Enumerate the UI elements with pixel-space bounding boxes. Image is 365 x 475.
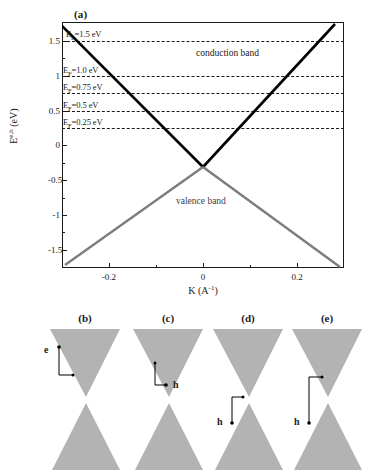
panel-dirac-cone-row: (b) e (c) h (d) bbox=[0, 300, 365, 475]
dirac-cone-b bbox=[42, 327, 128, 472]
valence-branch-left bbox=[65, 167, 203, 265]
dirac-cone-e bbox=[284, 327, 365, 472]
panel-c-label: (c) bbox=[125, 312, 211, 324]
panel-e-label: (e) bbox=[284, 312, 365, 324]
lower-cone-e bbox=[294, 403, 362, 470]
fermi-label-1.5: EF=1.5 eV bbox=[66, 29, 101, 41]
panel-a-band-dispersion: (a) 1.5 1 0.5 0 -0.5 -1 -1.5 -0.2 0 0.2 bbox=[0, 0, 365, 300]
ytick-label-0: 0 bbox=[48, 141, 60, 149]
xtick-label-neg0.2: -0.2 bbox=[94, 272, 124, 282]
panel-c: (c) h bbox=[125, 300, 211, 475]
carrier-label-c: h bbox=[173, 379, 179, 390]
panel-d: (d) h bbox=[205, 300, 291, 475]
upper-cone-e bbox=[292, 329, 362, 397]
lower-cone-d bbox=[215, 403, 283, 470]
carrier-dot-bottom-b bbox=[72, 374, 75, 377]
ytick-label-neg1: -1 bbox=[48, 211, 60, 219]
panel-b: (b) e bbox=[42, 300, 128, 475]
carrier-label-d: h bbox=[217, 416, 223, 427]
lower-cone-c bbox=[135, 403, 203, 470]
panel-e: (e) h bbox=[284, 300, 365, 475]
upper-cone-b bbox=[50, 329, 120, 397]
x-axis-label-base: K (A bbox=[188, 285, 208, 296]
fermi-label-0.75: EF=0.75 eV bbox=[63, 82, 103, 94]
carrier-bracket-e bbox=[309, 377, 322, 423]
fermi-label-1.0-value: =1.0 eV bbox=[72, 65, 99, 75]
carrier-dot-top-e bbox=[321, 376, 324, 379]
xtick-label-0.2: 0.2 bbox=[282, 272, 312, 282]
y-axis-label-sup: e,h bbox=[7, 129, 15, 137]
fermi-label-0.75-value: =0.75 eV bbox=[72, 82, 103, 92]
fermi-label-1.5-value: =1.5 eV bbox=[75, 29, 102, 39]
y-axis-label-base: E bbox=[8, 138, 19, 144]
fermi-label-1.0: EF=1.0 eV bbox=[63, 65, 98, 77]
ytick-label-neg0.5: -0.5 bbox=[48, 176, 60, 184]
panel-b-label: (b) bbox=[42, 312, 128, 324]
conduction-branch-left bbox=[62, 26, 203, 167]
x-axis-label-tail: ) bbox=[214, 285, 217, 296]
carrier-label-e: h bbox=[294, 416, 300, 427]
ytick-label-1.5: 1.5 bbox=[48, 37, 60, 45]
fermi-label-0.25: EF=0.25 eV bbox=[63, 117, 103, 129]
figure-root: (a) 1.5 1 0.5 0 -0.5 -1 -1.5 -0.2 0 0.2 bbox=[0, 0, 365, 475]
upper-cone-c bbox=[133, 329, 203, 397]
ytick-label-0.5: 0.5 bbox=[48, 107, 60, 115]
ytick-label-1: 1 bbox=[48, 72, 60, 80]
carrier-dot-bottom-c bbox=[164, 383, 168, 387]
valence-band-annotation: valence band bbox=[176, 196, 226, 206]
lower-cone-b bbox=[52, 403, 120, 470]
dirac-cone-c bbox=[125, 327, 211, 472]
ytick-label-neg1.5: -1.5 bbox=[48, 246, 60, 254]
fermi-label-0.5-value: =0.5 eV bbox=[72, 100, 99, 110]
valence-branch-right bbox=[203, 167, 340, 267]
carrier-dot-top-b bbox=[57, 345, 61, 349]
fermi-label-0.25-value: =0.25 eV bbox=[72, 117, 103, 127]
x-axis-label: K (A-1) bbox=[62, 284, 344, 296]
band-dispersion-lines bbox=[62, 22, 344, 268]
upper-cone-d bbox=[213, 329, 283, 397]
carrier-label-b: e bbox=[44, 344, 48, 355]
carrier-dot-top-d bbox=[242, 396, 245, 399]
y-axis-label-tail: (eV) bbox=[8, 109, 19, 130]
carrier-dot-bottom-d bbox=[230, 421, 234, 425]
xtick-label-0: 0 bbox=[188, 272, 218, 282]
carrier-dot-bottom-e bbox=[307, 421, 311, 425]
panel-a-label: (a) bbox=[74, 8, 87, 20]
conduction-band-annotation: conduction band bbox=[196, 48, 259, 58]
dirac-cone-d bbox=[205, 327, 291, 472]
fermi-label-0.5: EF=0.5 eV bbox=[63, 100, 98, 112]
panel-d-label: (d) bbox=[205, 312, 291, 324]
y-axis-label: Ee,h (eV) bbox=[7, 86, 19, 166]
conduction-branch-right bbox=[203, 24, 335, 167]
carrier-dot-top-c bbox=[154, 362, 157, 365]
